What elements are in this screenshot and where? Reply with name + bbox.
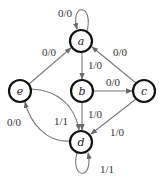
- edge-label-a-b: 1/0: [88, 59, 103, 71]
- edge-label-c-d: 1/0: [110, 126, 125, 138]
- edge-label-c-a: 0/0: [113, 46, 128, 58]
- edge-label-b-c: 0/0: [106, 76, 121, 88]
- state-diagram-svg: 0/0 0/0 0/0 1/0 0/0 1/0 1/0 1/1 0/0 1/1 …: [0, 0, 162, 181]
- edge-label-d-d: 1/1: [100, 163, 114, 175]
- edge-label-b-d: 1/0: [88, 108, 103, 120]
- state-label-a: a: [78, 35, 85, 48]
- state-label-c: c: [141, 85, 147, 98]
- state-node-b: b: [71, 80, 93, 102]
- edge-label-a-a: 0/0: [58, 7, 73, 19]
- edge-label-e-a: 0/0: [42, 46, 57, 58]
- state-label-b: b: [78, 85, 85, 98]
- edge-label-e-d: 1/1: [54, 115, 68, 127]
- state-diagram: 0/0 0/0 0/0 1/0 0/0 1/0 1/0 1/1 0/0 1/1 …: [0, 0, 162, 181]
- state-node-d: d: [70, 131, 92, 153]
- state-node-a: a: [70, 30, 92, 52]
- state-node-e: e: [9, 80, 31, 102]
- state-label-e: e: [17, 85, 24, 98]
- state-label-d: d: [77, 136, 84, 149]
- edge-label-d-e: 0/0: [7, 116, 22, 128]
- edge-a-a: [76, 10, 89, 31]
- state-node-c: c: [133, 80, 155, 102]
- edge-d-d: [76, 153, 89, 173]
